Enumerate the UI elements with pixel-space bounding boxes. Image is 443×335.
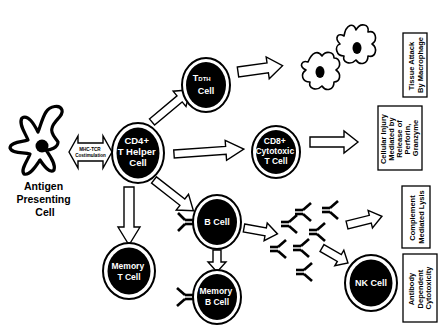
- outcome-complement-lysis: Complement Mediated Lysis: [402, 186, 430, 248]
- antigen-presenting-cell-icon: [10, 106, 62, 174]
- antibody-icon: [295, 203, 311, 221]
- antibody-icon: [281, 215, 297, 233]
- arrow-cd4-to-cd8: [173, 139, 244, 164]
- macrophage-icon-1: [302, 52, 340, 89]
- costimulation-label: MHC-TCR Costimulation: [75, 147, 106, 159]
- antibody-icon: [322, 201, 338, 219]
- arrow-cd8-to-cellular-injury: [310, 131, 358, 153]
- arrow-bcell-to-antibodies: [242, 219, 279, 243]
- antibody-icon: [270, 240, 286, 258]
- apc-label: Antigen Presenting Cell: [16, 180, 73, 218]
- arrow-tdth-to-macrophage: [236, 55, 284, 83]
- antibody-cluster: [270, 201, 338, 281]
- arrow-bcell-to-memory-b: [208, 250, 226, 272]
- antibody-icon: [296, 263, 312, 281]
- antibody-icon: [293, 239, 309, 257]
- memory-b-antibody-icon: [177, 288, 193, 306]
- macrophage-icon-2: [337, 25, 376, 64]
- svg-text:Antibody Dependent: Antibody Dependent Cytotoxicity: [407, 266, 433, 310]
- bcell-label: B Cell: [204, 217, 230, 227]
- arrow-antibodies-to-nk: [318, 240, 353, 271]
- costimulation-double-arrow: [69, 136, 112, 168]
- outcome-tissue-attack: Tissue Attack By Macrophage: [403, 33, 427, 97]
- tdth-cell: [182, 58, 230, 112]
- outcome-cellular-injury: Cellular Injury Mediated by Release of P…: [378, 106, 422, 170]
- svg-text:Tissue Attack By Macroph: Tissue Attack By Macrophage: [407, 37, 425, 93]
- bcell-antibody-icon: [178, 213, 193, 231]
- arrow-cd4-to-bcell: [148, 172, 200, 219]
- svg-text:Complement Mediated Lysi: Complement Mediated Lysis: [408, 190, 426, 244]
- arrow-cd4-to-memory-t: [118, 187, 140, 245]
- nk-label: NK Cell: [355, 278, 387, 288]
- immune-pathway-diagram: Antigen Presenting Cell MHC-TCR Costimul…: [0, 0, 443, 335]
- memory-t-cell: [103, 243, 155, 299]
- outcome-adcc: Antibody Dependent Cytotoxicity: [403, 254, 437, 322]
- arrow-antibodies-to-complement: [345, 208, 384, 234]
- antibody-icon: [309, 223, 325, 241]
